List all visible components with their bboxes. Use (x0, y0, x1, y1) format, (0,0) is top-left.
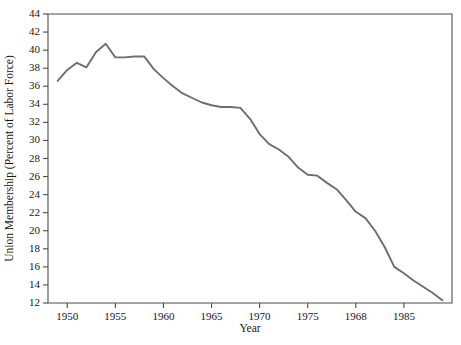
x-tick-label: 1968 (345, 310, 368, 322)
x-tick-label: 1975 (297, 310, 320, 322)
y-tick-label: 42 (29, 25, 40, 37)
line-chart: 1214161820222426283032343638404244 19501… (0, 0, 461, 345)
chart-figure: 1214161820222426283032343638404244 19501… (0, 0, 461, 345)
x-tick-label: 1970 (249, 310, 272, 322)
data-line-union-membership (58, 44, 443, 300)
y-tick-label: 24 (29, 188, 41, 200)
y-axis-title: Union Membership (Percent of Labor Force… (3, 55, 16, 262)
y-tick-label: 32 (29, 115, 40, 127)
y-tick-label: 22 (29, 206, 40, 218)
x-tick-label: 1950 (56, 310, 79, 322)
y-tick-label: 12 (29, 296, 40, 308)
x-axis-ticks: 19501955196019651970197519681985 (56, 303, 415, 322)
y-tick-label: 38 (29, 61, 41, 73)
y-tick-label: 30 (29, 133, 41, 145)
y-tick-label: 26 (29, 170, 41, 182)
x-tick-label: 1985 (393, 310, 416, 322)
y-tick-label: 28 (29, 152, 41, 164)
y-tick-label: 16 (29, 260, 41, 272)
x-tick-label: 1960 (152, 310, 175, 322)
x-tick-label: 1955 (104, 310, 127, 322)
y-tick-label: 14 (29, 278, 41, 290)
y-tick-label: 18 (29, 242, 41, 254)
y-axis-ticks: 1214161820222426283032343638404244 (29, 7, 48, 308)
x-tick-label: 1965 (201, 310, 224, 322)
y-tick-label: 40 (29, 43, 41, 55)
y-tick-label: 34 (29, 97, 41, 109)
y-tick-label: 44 (29, 7, 41, 19)
data-series-group (58, 44, 443, 300)
y-tick-label: 20 (29, 224, 41, 236)
x-axis-title: Year (239, 322, 260, 334)
y-tick-label: 36 (29, 79, 41, 91)
